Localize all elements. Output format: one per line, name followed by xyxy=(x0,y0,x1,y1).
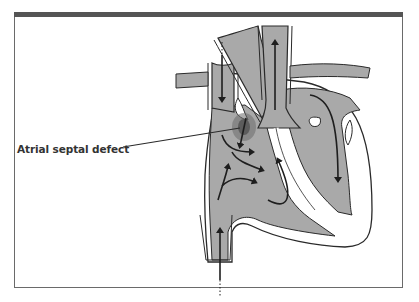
atrial-septal-defect-label: Atrial septal defect xyxy=(17,143,129,155)
superior-vena-cava xyxy=(208,63,238,112)
pulmonary-vein-band xyxy=(290,64,370,78)
pulmonary-vein-stub-left xyxy=(176,72,208,88)
